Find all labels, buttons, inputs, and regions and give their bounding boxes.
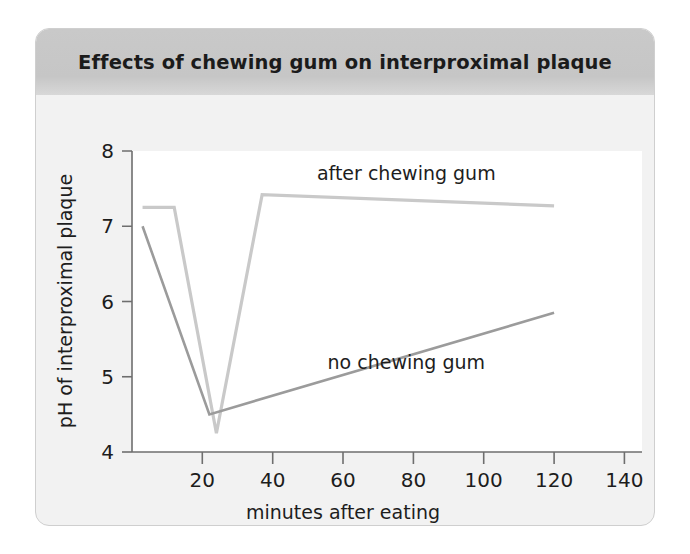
x-tick-label-60: 60 xyxy=(330,468,355,492)
x-tick-label-120: 120 xyxy=(535,468,573,492)
x-tick-label-140: 140 xyxy=(605,468,643,492)
x-tick-label-20: 20 xyxy=(190,468,215,492)
x-tick-label-80: 80 xyxy=(401,468,426,492)
y-tick-label-4: 4 xyxy=(101,440,114,464)
y-axis-title: pH of interproximal plaque xyxy=(54,174,76,428)
line-chart-svg: 8 7 6 5 4 20 40 60 80 100 120 140 xyxy=(36,95,655,526)
page-title: Effects of chewing gum on interproximal … xyxy=(78,51,612,74)
plot-background xyxy=(132,151,642,452)
y-tick-label-8: 8 xyxy=(101,139,114,163)
series-label-no-chewing-gum: no chewing gum xyxy=(328,351,485,373)
x-axis-ticks xyxy=(202,452,624,464)
y-axis-ticks xyxy=(122,151,132,452)
y-tick-label-5: 5 xyxy=(101,365,114,389)
x-tick-label-40: 40 xyxy=(260,468,285,492)
x-axis-title: minutes after eating xyxy=(246,501,440,523)
y-tick-label-6: 6 xyxy=(101,290,114,314)
chart-title-bar: Effects of chewing gum on interproximal … xyxy=(36,29,654,95)
series-label-after-chewing-gum: after chewing gum xyxy=(317,162,496,184)
plot-area: 8 7 6 5 4 20 40 60 80 100 120 140 xyxy=(36,95,655,526)
x-tick-label-100: 100 xyxy=(465,468,503,492)
y-tick-label-7: 7 xyxy=(101,214,114,238)
figure-card: Effects of chewing gum on interproximal … xyxy=(35,28,655,526)
